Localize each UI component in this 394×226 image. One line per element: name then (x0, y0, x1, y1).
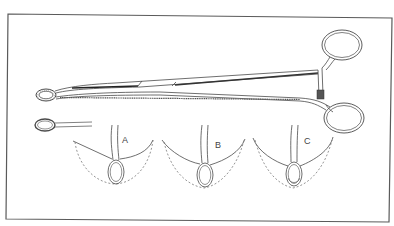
view-a (73, 125, 153, 184)
view-label-c: C (304, 136, 311, 146)
engraving: ~~~ ~~~~~ (163, 97, 179, 101)
view-label-b: B (215, 140, 221, 150)
tip-side-view (35, 119, 92, 131)
view-b (162, 125, 245, 188)
view-c (253, 125, 333, 188)
figure-frame (6, 14, 392, 222)
forceps-figure: ~~~ ~~~~~ A B C (0, 0, 394, 226)
view-label-a: A (122, 135, 128, 145)
forceps-instrument (36, 30, 364, 133)
